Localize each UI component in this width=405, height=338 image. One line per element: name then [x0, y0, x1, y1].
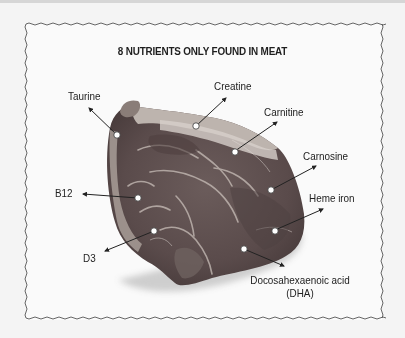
- label-taurine: Taurine: [68, 90, 100, 103]
- label-dha-line2: (DHA): [248, 287, 351, 300]
- marker-dot-d3: [151, 228, 157, 234]
- marker-dot-taurine: [114, 132, 120, 138]
- marker-dot-creatine: [193, 123, 199, 129]
- label-carnitine: Carnitine: [264, 106, 304, 119]
- label-dha: Docosahexaenoic acid (DHA): [248, 274, 351, 300]
- label-d3: D3: [83, 252, 96, 265]
- infographic-title: 8 NUTRIENTS ONLY FOUND IN MEAT: [28, 45, 376, 57]
- label-creatine: Creatine: [214, 80, 251, 93]
- marker-dot-carnosine: [268, 187, 274, 193]
- marker-dot-carnitine: [232, 149, 238, 155]
- label-heme-iron: Heme iron: [309, 192, 355, 205]
- label-carnosine: Carnosine: [303, 150, 348, 163]
- marker-dot-b12: [135, 195, 141, 201]
- label-b12: B12: [55, 187, 73, 200]
- marker-dot-dha: [241, 246, 247, 252]
- label-dha-line1: Docosahexaenoic acid: [248, 274, 351, 287]
- marker-dot-heme-iron: [272, 228, 278, 234]
